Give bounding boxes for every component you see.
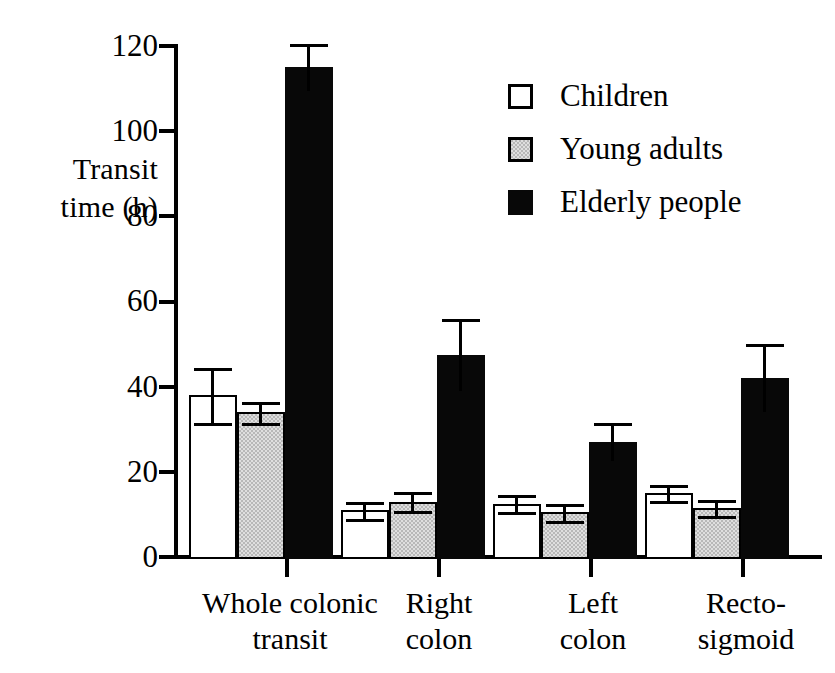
legend-swatch-elderly-people-icon bbox=[508, 190, 533, 215]
error-bar-young-adults-right-colon-cap-upper bbox=[394, 492, 432, 495]
error-bar-children-left-colon-cap-lower bbox=[498, 512, 536, 515]
error-bar-children-whole-colonic-transit-cap-lower bbox=[194, 423, 232, 426]
error-bar-elderly-people-left-colon-stem bbox=[611, 423, 614, 461]
error-bar-elderly-people-whole-colonic-transit-cap-upper bbox=[290, 44, 328, 47]
y-tick-mark-0 bbox=[159, 555, 175, 559]
error-bar-young-adults-left-colon-cap-upper bbox=[546, 504, 584, 507]
error-bar-children-recto-sigmoid-cap-upper bbox=[650, 485, 688, 488]
bar-chart-figure: Transit time (h) 120 100 80 60 40 20 0 bbox=[0, 0, 835, 673]
y-tick-label-40: 40 bbox=[88, 371, 158, 402]
x-tick-mark-2 bbox=[437, 559, 441, 577]
error-bar-children-whole-colonic-transit-cap-upper bbox=[194, 368, 232, 371]
error-bar-young-adults-recto-sigmoid-cap-lower bbox=[698, 516, 736, 519]
error-bar-elderly-people-right-colon-stem bbox=[459, 319, 462, 391]
y-tick-label-60: 60 bbox=[88, 285, 158, 316]
error-bar-children-right-colon-cap-lower bbox=[346, 519, 384, 522]
error-bar-young-adults-left-colon-cap-lower bbox=[546, 521, 584, 524]
legend-swatch-young-adults-icon bbox=[508, 137, 533, 162]
error-bar-children-left-colon-cap-upper bbox=[498, 495, 536, 498]
legend-label-elderly-people: Elderly people bbox=[560, 182, 742, 222]
y-tick-mark-100 bbox=[159, 129, 175, 133]
bar-elderly-people-whole-colonic-transit[interactable] bbox=[285, 67, 333, 559]
error-bar-elderly-people-right-colon-cap-upper bbox=[442, 319, 480, 322]
error-bar-elderly-people-recto-sigmoid-stem bbox=[763, 344, 766, 412]
y-tick-mark-20 bbox=[159, 470, 175, 474]
y-tick-label-120: 120 bbox=[88, 30, 158, 61]
x-category-label-recto-sigmoid: Recto- sigmoid bbox=[650, 585, 835, 657]
error-bar-young-adults-whole-colonic-transit-cap-upper bbox=[242, 402, 280, 405]
x-tick-mark-1 bbox=[285, 559, 289, 577]
y-tick-label-0: 0 bbox=[88, 541, 158, 572]
error-bar-young-adults-right-colon-cap-lower bbox=[394, 511, 432, 514]
error-bar-children-whole-colonic-transit-stem bbox=[211, 368, 214, 423]
error-bar-children-right-colon-cap-upper bbox=[346, 502, 384, 505]
y-tick-label-100: 100 bbox=[88, 115, 158, 146]
legend-swatch-children-icon bbox=[508, 84, 533, 109]
error-bar-young-adults-whole-colonic-transit-stem bbox=[259, 402, 262, 423]
error-bar-elderly-people-recto-sigmoid-cap-upper bbox=[746, 344, 784, 347]
y-tick-mark-40 bbox=[159, 385, 175, 389]
y-tick-mark-80 bbox=[159, 214, 175, 218]
y-tick-mark-120 bbox=[159, 44, 175, 48]
y-tick-mark-60 bbox=[159, 300, 175, 304]
error-bar-young-adults-whole-colonic-transit-cap-lower bbox=[242, 423, 280, 426]
y-tick-label-80: 80 bbox=[88, 200, 158, 231]
error-bar-children-recto-sigmoid-cap-lower bbox=[650, 501, 688, 504]
x-tick-mark-3 bbox=[589, 559, 593, 577]
error-bar-elderly-people-whole-colonic-transit-stem bbox=[307, 44, 310, 91]
error-bar-elderly-people-left-colon-cap-upper bbox=[594, 423, 632, 426]
bar-young-adults-whole-colonic-transit[interactable] bbox=[237, 412, 285, 559]
legend-label-children: Children bbox=[560, 76, 669, 116]
legend-label-young-adults: Young adults bbox=[560, 129, 723, 169]
y-tick-label-20: 20 bbox=[88, 456, 158, 487]
error-bar-young-adults-recto-sigmoid-cap-upper bbox=[698, 500, 736, 503]
x-tick-mark-4 bbox=[741, 559, 745, 577]
